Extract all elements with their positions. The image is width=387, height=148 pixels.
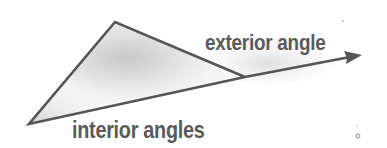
exterior-angle-label: exterior angle xyxy=(205,30,325,56)
interior-angles-label: interior angles xyxy=(72,117,204,144)
angle-diagram: exterior angle interior angles xyxy=(0,0,387,148)
speck xyxy=(342,20,344,22)
speck xyxy=(356,134,360,138)
speck xyxy=(356,125,357,126)
